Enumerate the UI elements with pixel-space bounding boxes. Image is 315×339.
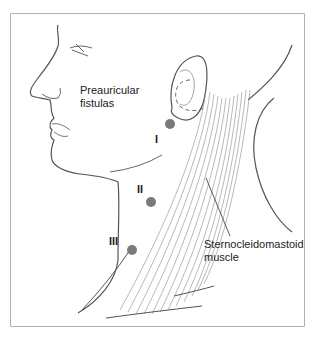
site-III-label: III xyxy=(109,235,118,247)
head-neck-illustration xyxy=(0,0,315,339)
clavicle-lower xyxy=(106,306,202,318)
site-III-marker xyxy=(127,245,137,255)
site-II-marker xyxy=(146,197,156,207)
preauricular-fistula-outline xyxy=(176,80,204,111)
scm-label-line1: Sternocleidomastoid xyxy=(204,238,304,251)
jaw-line xyxy=(110,155,162,172)
preauricular-label-line1: Preauricular xyxy=(80,84,139,97)
face-profile xyxy=(30,25,118,313)
clavicle-upper xyxy=(174,286,214,296)
nostril xyxy=(42,88,61,99)
frame xyxy=(11,14,305,327)
preauricular-label: Preauricular fistulas xyxy=(80,84,139,110)
scm-label-line2: muscle xyxy=(204,251,304,264)
site-I-marker xyxy=(165,119,175,129)
ear-inner xyxy=(180,70,194,105)
sternocleidomastoid-fibers xyxy=(120,90,250,314)
trapezius-curve xyxy=(254,98,292,232)
preauricular-label-line2: fistulas xyxy=(80,97,139,110)
scm-label: Sternocleidomastoid muscle xyxy=(204,238,304,264)
back-of-head xyxy=(248,45,292,100)
site-I-label: I xyxy=(155,133,158,145)
neck-front xyxy=(82,250,130,310)
lips xyxy=(52,124,70,137)
eye xyxy=(70,44,92,56)
site-II-label: II xyxy=(137,183,143,195)
